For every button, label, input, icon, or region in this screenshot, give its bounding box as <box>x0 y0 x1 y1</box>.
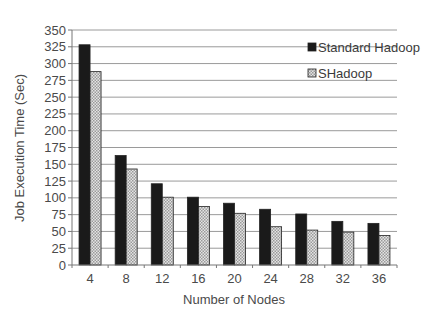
y-tick-label: 150 <box>44 157 66 172</box>
x-tick-label: 32 <box>336 271 350 286</box>
y-tick-label: 100 <box>44 190 66 205</box>
y-axis-title: Job Execution Time (Sec) <box>12 74 27 222</box>
y-tick-label: 250 <box>44 90 66 105</box>
bar-shadoop-32 <box>343 232 354 265</box>
legend: Standard HadoopSHadoop <box>308 40 420 81</box>
y-tick-label: 300 <box>44 56 66 71</box>
bar-standard-hadoop-20 <box>224 203 235 265</box>
x-axis-title: Number of Nodes <box>183 292 285 307</box>
x-tick-label: 16 <box>191 271 205 286</box>
y-tick-label: 125 <box>44 174 66 189</box>
legend-swatch-shadoop <box>308 69 316 77</box>
bar-shadoop-4 <box>90 72 101 265</box>
x-tick-label: 28 <box>299 271 313 286</box>
y-tick-label: 225 <box>44 106 66 121</box>
y-tick-label: 75 <box>52 207 66 222</box>
x-tick-label: 24 <box>263 271 277 286</box>
bar-chart: 0255075100125150175200225250275300325350… <box>0 0 436 328</box>
y-tick-label: 0 <box>59 258 66 273</box>
x-tick-label: 12 <box>155 271 169 286</box>
legend-label-shadoop: SHadoop <box>318 66 372 81</box>
bar-shadoop-24 <box>271 227 282 265</box>
bar-standard-hadoop-16 <box>187 197 198 265</box>
bar-standard-hadoop-28 <box>296 214 307 265</box>
bar-shadoop-16 <box>198 207 209 265</box>
bar-standard-hadoop-4 <box>79 45 90 265</box>
y-tick-label: 275 <box>44 73 66 88</box>
x-tick-label: 8 <box>123 271 130 286</box>
bar-shadoop-28 <box>307 230 318 265</box>
x-axis-ticks: 4812162024283236 <box>72 265 397 286</box>
legend-label-standard-hadoop: Standard Hadoop <box>318 40 420 55</box>
legend-swatch-standard-hadoop <box>308 43 316 51</box>
x-tick-label: 4 <box>86 271 93 286</box>
y-tick-label: 200 <box>44 123 66 138</box>
x-tick-label: 36 <box>372 271 386 286</box>
bar-shadoop-20 <box>235 213 246 265</box>
bar-shadoop-36 <box>379 235 390 265</box>
bar-standard-hadoop-8 <box>115 156 126 265</box>
bar-standard-hadoop-24 <box>260 209 271 265</box>
y-axis-ticks: 0255075100125150175200225250275300325350 <box>44 23 72 273</box>
y-tick-label: 50 <box>52 224 66 239</box>
bar-shadoop-8 <box>126 169 137 265</box>
bar-shadoop-12 <box>162 197 173 265</box>
y-tick-label: 325 <box>44 39 66 54</box>
y-tick-label: 175 <box>44 140 66 155</box>
bar-standard-hadoop-32 <box>332 221 343 265</box>
bar-standard-hadoop-36 <box>368 223 379 265</box>
bar-standard-hadoop-12 <box>151 184 162 265</box>
y-tick-label: 350 <box>44 23 66 38</box>
y-tick-label: 25 <box>52 241 66 256</box>
x-tick-label: 20 <box>227 271 241 286</box>
